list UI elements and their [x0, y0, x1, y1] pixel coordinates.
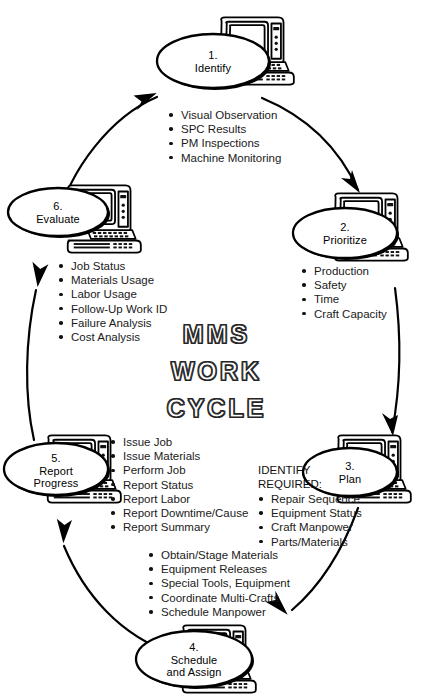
arrowhead-report [57, 517, 75, 543]
list-identify: Visual Observation SPC Results PM Inspec… [168, 108, 281, 165]
list-item: Time [301, 292, 387, 306]
list-item: Cost Analysis [58, 330, 167, 344]
list-item: Report Summary [110, 520, 248, 534]
list-report-progress: Issue Job Issue Materials Perform Job Re… [110, 435, 248, 534]
arrow-prioritize-to-plan [392, 288, 399, 432]
list-item: Follow-Up Work ID [58, 302, 167, 316]
list-item: Equipment Releases [148, 562, 290, 576]
node-ellipse-identify [157, 34, 271, 90]
list-item: Machine Monitoring [168, 151, 281, 165]
list-item: Report Downtime/Cause [110, 506, 248, 520]
plan-heading-line-1: IDENTIFY [258, 463, 322, 477]
node-ellipse-prioritize [293, 208, 399, 260]
list-item: Labor Usage [58, 287, 167, 301]
list-item: Repair Sequence [258, 492, 362, 506]
list-item: Issue Job [110, 435, 248, 449]
list-item: Craft Capacity [301, 307, 387, 321]
list-item: Equipment Status [258, 506, 362, 520]
list-item: Obtain/Stage Materials [148, 548, 290, 562]
list-prioritize: Production Safety Time Craft Capacity [301, 264, 387, 321]
list-item: Safety [301, 278, 387, 292]
plan-heading: IDENTIFY REQUIRED: [258, 463, 322, 491]
list-item: Perform Job [110, 463, 248, 477]
node-ellipse-report-progress [4, 443, 110, 497]
list-item: Report Status [110, 478, 248, 492]
list-item: Failure Analysis [58, 316, 167, 330]
plan-heading-line-2: REQUIRED: [258, 477, 322, 491]
list-item: Coordinate Multi-Crafts [148, 591, 290, 605]
list-item: Job Status [58, 259, 167, 273]
list-item: Report Labor [110, 492, 248, 506]
list-item: Parts/Materials [258, 535, 362, 549]
list-item: Craft Manpower [258, 520, 362, 534]
list-plan: Repair Sequence Equipment Status Craft M… [258, 492, 362, 549]
node-ellipse-evaluate [8, 188, 110, 238]
list-item: PM Inspections [168, 136, 281, 150]
list-item: Visual Observation [168, 108, 281, 122]
node-ellipse-schedule-and-assign [136, 631, 254, 689]
list-item: Materials Usage [58, 273, 167, 287]
arrowhead-evaluate [32, 262, 49, 288]
arrow-report-to-evaluate [27, 290, 36, 440]
list-item: Issue Materials [110, 449, 248, 463]
list-schedule-and-assign: Obtain/Stage Materials Equipment Release… [148, 548, 290, 619]
mms-work-cycle-diagram: 1. Identify 2. Prioritize 3. Plan 4. Sch… [0, 0, 433, 700]
list-evaluate: Job Status Materials Usage Labor Usage F… [58, 259, 167, 344]
arrowhead-plan [382, 413, 398, 436]
list-item: Schedule Manpower [148, 605, 290, 619]
list-item: Production [301, 264, 387, 278]
list-item: Special Tools, Equipment [148, 576, 290, 590]
list-item: SPC Results [168, 122, 281, 136]
